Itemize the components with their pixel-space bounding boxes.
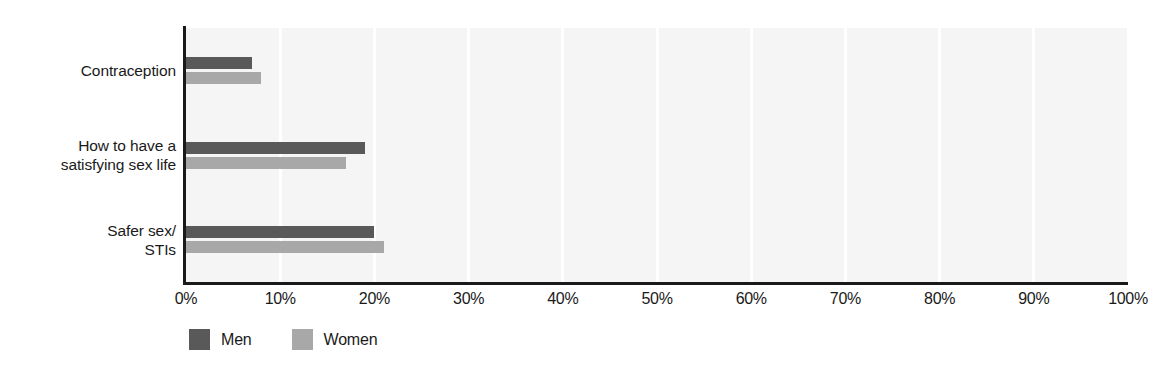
x-tick-label: 0%: [175, 288, 198, 310]
x-tick-label: 60%: [736, 288, 767, 310]
x-tick-label: 30%: [453, 288, 484, 310]
legend-label-men: Men: [221, 330, 252, 350]
bar-women[interactable]: [186, 157, 346, 169]
bar-women[interactable]: [186, 241, 384, 253]
category-label: How to have a satisfying sex life: [0, 136, 176, 174]
x-tick-label: 70%: [830, 288, 861, 310]
legend-item-men[interactable]: Men: [189, 329, 252, 350]
x-tick-label: 20%: [359, 288, 390, 310]
x-tick-labels: 0%10%20%30%40%50%60%70%80%90%100%: [0, 288, 1153, 314]
x-tick-label: 10%: [265, 288, 296, 310]
x-axis-line: [183, 282, 1128, 285]
category-label: Safer sex/ STIs: [0, 221, 176, 259]
legend-label-women: Women: [324, 330, 378, 350]
bars-layer: [186, 28, 1128, 282]
category-label: Contraception: [0, 61, 176, 80]
x-tick-label: 80%: [924, 288, 955, 310]
bar-men[interactable]: [186, 226, 374, 238]
bar-men[interactable]: [186, 57, 252, 69]
bar-women[interactable]: [186, 72, 261, 84]
women-swatch-icon: [292, 329, 313, 350]
horizontal-bar-chart: ContraceptionHow to have a satisfying se…: [0, 0, 1153, 368]
legend-item-women[interactable]: Women: [292, 329, 378, 350]
x-tick-label: 100%: [1108, 288, 1148, 310]
x-tick-label: 90%: [1018, 288, 1049, 310]
category-axis-labels: ContraceptionHow to have a satisfying se…: [0, 28, 176, 282]
bar-men[interactable]: [186, 142, 365, 154]
chart-legend: Men Women: [189, 329, 377, 350]
men-swatch-icon: [189, 329, 210, 350]
x-tick-label: 40%: [547, 288, 578, 310]
x-tick-label: 50%: [641, 288, 672, 310]
